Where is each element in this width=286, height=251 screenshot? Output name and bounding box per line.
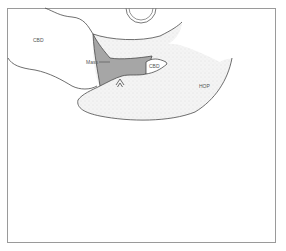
cbd-left-region — [8, 8, 97, 89]
label-cbd-right: CBD — [149, 63, 160, 69]
diagram-canvas: CBD Mass CBD HOP — [0, 0, 286, 251]
label-hop: HOP — [199, 83, 211, 89]
label-mass: Mass — [86, 59, 98, 65]
vessel-circle — [126, 8, 156, 23]
label-cbd-left: CBD — [33, 37, 44, 43]
